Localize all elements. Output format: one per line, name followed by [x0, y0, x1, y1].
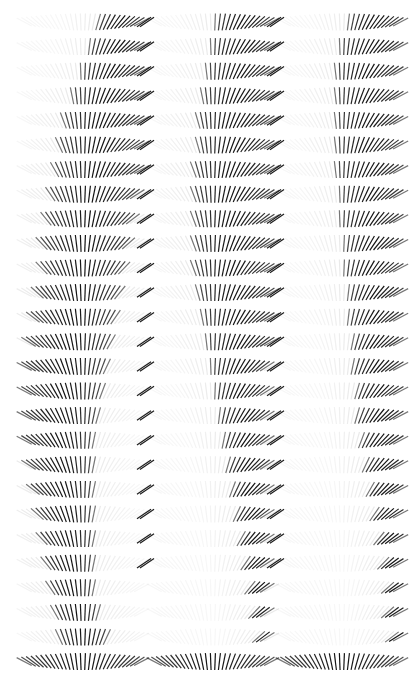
- stroke-segment: [70, 653, 73, 670]
- stroke-segment: [92, 555, 95, 572]
- stroke-segment: [205, 555, 207, 572]
- stroke-segment: [88, 604, 90, 621]
- stroke-tail-mark: [267, 288, 281, 298]
- stroke-segment: [70, 284, 73, 301]
- stroke-segment: [205, 506, 207, 523]
- stroke-segment: [222, 137, 225, 154]
- stroke-segment: [339, 137, 340, 154]
- stroke-segment: [50, 531, 58, 546]
- stroke-tail-mark: [267, 362, 281, 372]
- stroke-segment: [88, 137, 90, 154]
- stroke-segment: [309, 162, 317, 177]
- stroke-segment: [339, 530, 340, 547]
- stroke-segment: [50, 236, 58, 251]
- stroke-segment: [309, 531, 317, 546]
- stroke-segment: [107, 211, 115, 226]
- stroke-segment: [75, 579, 77, 596]
- stroke-segment: [80, 235, 81, 252]
- stroke-segment: [215, 309, 216, 326]
- stroke-segment: [344, 481, 345, 498]
- stroke-segment: [107, 531, 115, 546]
- stroke-segment: [237, 211, 245, 226]
- stroke-segment: [80, 112, 81, 129]
- stroke-segment: [215, 456, 216, 473]
- stroke-row: [17, 432, 154, 449]
- stroke-row: [17, 407, 154, 424]
- stroke-segment: [366, 630, 374, 645]
- stroke-row: [276, 284, 408, 301]
- stroke-row: [276, 481, 408, 498]
- stroke-segment: [80, 260, 81, 277]
- stroke-segment: [85, 530, 86, 547]
- stroke-segment: [222, 383, 225, 400]
- stroke-segment: [344, 63, 345, 80]
- stroke-segment: [200, 506, 203, 523]
- stroke-segment: [218, 555, 220, 572]
- stroke-row: [17, 358, 154, 375]
- stroke-segment: [366, 334, 374, 349]
- stroke-segment: [85, 432, 86, 449]
- stroke-segment: [107, 482, 115, 497]
- stroke-segment: [329, 456, 332, 473]
- stroke-segment: [329, 137, 332, 154]
- stroke-segment: [107, 556, 115, 571]
- stroke-row: [276, 358, 408, 375]
- stroke-segment: [70, 579, 73, 596]
- stroke-segment: [339, 260, 340, 277]
- stroke-segment: [75, 407, 77, 424]
- stroke-segment: [339, 358, 340, 375]
- stroke-tail-mark: [267, 411, 281, 421]
- stroke-segment: [205, 137, 207, 154]
- stroke-segment: [347, 260, 349, 277]
- stroke-segment: [329, 161, 332, 178]
- stroke-segment: [50, 113, 58, 128]
- stroke-segment: [334, 653, 336, 670]
- stroke-segment: [92, 161, 95, 178]
- stroke-segment: [347, 284, 349, 301]
- stroke-segment: [237, 384, 245, 399]
- stroke-row: [147, 555, 284, 572]
- stroke-segment: [237, 138, 245, 153]
- stroke-segment: [347, 358, 349, 375]
- stroke-segment: [107, 15, 115, 30]
- stroke-segment: [351, 555, 354, 572]
- stroke-row: [17, 653, 149, 670]
- stroke-segment: [210, 579, 211, 596]
- stroke-segment: [309, 654, 317, 669]
- stroke-segment: [205, 604, 207, 621]
- stroke-segment: [334, 137, 336, 154]
- stroke-segment: [107, 187, 115, 202]
- stroke-segment: [339, 456, 340, 473]
- stroke-segment: [237, 236, 245, 251]
- stroke-segment: [85, 653, 86, 670]
- stroke-segment: [210, 629, 211, 646]
- stroke-segment: [222, 506, 225, 523]
- stroke-row: [17, 63, 154, 80]
- stroke-tail-mark: [267, 66, 281, 76]
- stroke-segment: [218, 284, 220, 301]
- stroke-segment: [215, 383, 216, 400]
- stroke-segment: [70, 383, 73, 400]
- stroke-segment: [366, 285, 374, 300]
- stroke-segment: [180, 605, 188, 620]
- stroke-segment: [351, 63, 354, 80]
- stroke-segment: [80, 407, 81, 424]
- stroke-tail-mark: [267, 386, 281, 396]
- stroke-segment: [237, 507, 245, 522]
- stroke-segment: [88, 112, 90, 129]
- stroke-segment: [210, 506, 211, 523]
- stroke-segment: [205, 235, 207, 252]
- stroke-segment: [50, 359, 58, 374]
- stroke-segment: [329, 358, 332, 375]
- stroke-segment: [339, 333, 340, 350]
- stroke-segment: [309, 261, 317, 276]
- stroke-segment: [344, 260, 345, 277]
- stroke-row: [17, 210, 154, 227]
- stroke-segment: [334, 555, 336, 572]
- stroke-segment: [180, 113, 188, 128]
- stroke-segment: [85, 333, 86, 350]
- stroke-segment: [329, 407, 332, 424]
- stroke-segment: [222, 161, 225, 178]
- stroke-segment: [218, 112, 220, 129]
- stroke-row: [276, 407, 408, 424]
